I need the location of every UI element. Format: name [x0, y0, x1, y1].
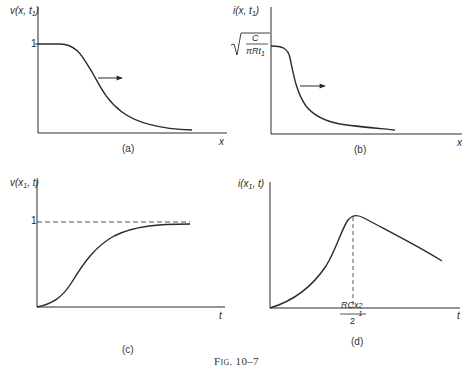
numerator-sup: 2 [359, 302, 363, 309]
y-label-args: (x, t [235, 5, 252, 16]
panel-b-y-tick-numerator: C [252, 34, 259, 43]
panel-a-y-tick-label: 1 [31, 39, 37, 49]
panel-b [271, 7, 462, 134]
y-label-close: ) [36, 5, 39, 16]
panel-d-curve [270, 216, 442, 308]
panel-c [37, 180, 225, 307]
panel-b-x-axis-label: x [457, 138, 462, 148]
panel-d [270, 182, 460, 314]
panel-d-x-axis-label: t [457, 311, 460, 321]
panel-b-caption: (b) [354, 145, 366, 155]
y-label-close: , t) [27, 177, 39, 188]
numerator-text: RCx [341, 300, 359, 310]
panel-c-y-axis-label: v(x1, t) [10, 178, 39, 189]
panel-c-x-axis-label: t [219, 311, 222, 321]
figure-canvas [0, 0, 467, 374]
caption-prefix: Fig. [214, 355, 233, 367]
panel-a-y-axis-label: v(x, t1) [10, 6, 39, 17]
panel-b-curve [271, 46, 395, 130]
figure-caption: Fig. 10–7 [214, 356, 259, 367]
panel-a-curve [38, 44, 192, 130]
denominator-text: πRt [246, 46, 261, 56]
panel-c-y-tick-label: 1 [31, 216, 37, 226]
panel-d-x-tick-numerator: RCx 2 1 [341, 301, 365, 310]
caption-number: 10–7 [236, 355, 259, 367]
y-label-args: (x [240, 178, 248, 189]
panel-d-caption: (d) [351, 337, 363, 347]
panel-b-y-axis-label: i(x, t1) [233, 6, 259, 17]
panel-a-caption: (a) [122, 144, 134, 154]
y-label-close: , t) [252, 178, 264, 189]
panel-b-y-tick-denominator: πRt1 [246, 47, 265, 57]
y-label-close: ) [256, 5, 259, 16]
denominator-sub: 1 [261, 50, 265, 57]
panel-c-curve [37, 224, 190, 307]
y-label-args: (x, t [15, 5, 32, 16]
panel-a-x-axis-label: x [219, 137, 224, 147]
panel-d-y-axis-label: i(x1, t) [238, 179, 264, 190]
numerator-sub: 1 [359, 310, 363, 317]
panel-d-x-tick-denominator: 2 [350, 317, 355, 326]
panel-c-caption: (c) [122, 345, 134, 355]
panel-a [35, 7, 227, 133]
